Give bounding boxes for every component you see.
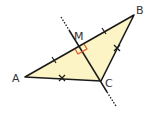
- label-c: C: [105, 77, 113, 90]
- bisector-dotted-bottom: [107, 92, 116, 106]
- label-m: M: [74, 30, 84, 43]
- geometry-diagram: A B C M: [0, 0, 149, 114]
- label-b: B: [136, 4, 144, 17]
- label-a: A: [12, 72, 20, 85]
- bisector-dotted-top: [61, 17, 69, 30]
